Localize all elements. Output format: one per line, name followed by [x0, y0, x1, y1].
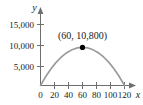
y-tick-label-15000: 15,000 — [9, 20, 34, 30]
y-axis-label: y — [31, 2, 37, 13]
x-tick-label-80: 80 — [92, 90, 102, 100]
x-tick-label-100: 100 — [104, 90, 118, 100]
x-tick-label-20: 20 — [50, 90, 60, 100]
vertex-point-marker — [80, 45, 85, 50]
x-tick-label-40: 40 — [64, 90, 74, 100]
vertex-annotation-label: (60, 10,800) — [58, 30, 107, 42]
parabola-curve — [41, 47, 125, 85]
y-tick-label-10000: 10,000 — [9, 41, 34, 51]
x-tick-label-120: 120 — [118, 90, 132, 100]
parabola-chart: 15,000 10,000 5,000 0 20 40 60 80 100 12… — [0, 0, 143, 105]
x-axis-label: x — [135, 89, 141, 100]
y-axis-arrowhead — [38, 7, 44, 14]
y-tick-label-5000: 5,000 — [14, 62, 35, 72]
chart-figure: 15,000 10,000 5,000 0 20 40 60 80 100 12… — [0, 0, 143, 105]
x-tick-label-60: 60 — [78, 90, 88, 100]
x-axis-arrowhead — [129, 83, 136, 89]
x-tick-label-0: 0 — [38, 90, 43, 100]
